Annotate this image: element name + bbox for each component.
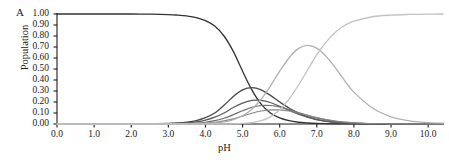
y-tick-label: 0.60 xyxy=(19,53,49,63)
x-tick-label: 0.0 xyxy=(40,130,74,140)
x-tick-label: 7.0 xyxy=(300,130,334,140)
y-tick-label: 0.80 xyxy=(19,31,49,41)
x-tick-label: 3.0 xyxy=(151,130,185,140)
x-tick-label: 1.0 xyxy=(77,130,111,140)
data-curves xyxy=(57,14,443,124)
y-tick-label: 0.00 xyxy=(19,119,49,129)
x-tick-label: 5.0 xyxy=(226,130,260,140)
curve-mono-deprotonated-minor-1 xyxy=(57,100,443,124)
x-tick-label: 2.0 xyxy=(114,130,148,140)
y-tick-label: 0.20 xyxy=(19,97,49,107)
y-tick-label: 0.90 xyxy=(19,20,49,30)
tick-marks xyxy=(54,14,429,128)
curve-di-deprotonated xyxy=(57,45,443,124)
y-tick-label: 1.00 xyxy=(19,9,49,19)
x-tick-label: 4.0 xyxy=(188,130,222,140)
figure-panel-a: A Population pH 0.000.100.200.300.400.50… xyxy=(0,0,449,162)
curve-mono-deprotonated-major xyxy=(57,88,443,124)
y-tick-label: 0.50 xyxy=(19,64,49,74)
y-tick-label: 0.10 xyxy=(19,108,49,118)
y-tick-label: 0.30 xyxy=(19,86,49,96)
x-tick-label: 8.0 xyxy=(337,130,371,140)
x-tick-label: 6.0 xyxy=(263,130,297,140)
x-tick-label: 9.0 xyxy=(374,130,408,140)
x-tick-label: 10.0 xyxy=(411,130,445,140)
y-tick-label: 0.70 xyxy=(19,42,49,52)
y-tick-label: 0.40 xyxy=(19,75,49,85)
curve-mono-deprotonated-minor-3 xyxy=(57,110,443,124)
